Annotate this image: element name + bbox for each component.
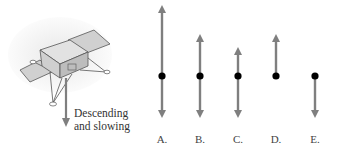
- up-arrowhead-icon: [196, 34, 204, 42]
- up-arrowhead-icon: [158, 5, 166, 13]
- force-diagram-d: [272, 34, 280, 80]
- up-arrowhead-icon: [272, 34, 280, 42]
- down-arrowhead-icon: [158, 110, 166, 118]
- option-label-e: E.: [305, 133, 325, 145]
- object-dot: [272, 72, 279, 79]
- down-arrowhead-icon: [311, 110, 319, 118]
- object-dot: [311, 72, 318, 79]
- force-diagram-b: [196, 34, 204, 118]
- object-dot: [158, 72, 165, 79]
- option-label-d: D.: [266, 133, 286, 145]
- object-dot: [196, 72, 203, 79]
- option-label-a: A.: [152, 133, 172, 145]
- option-label-c: C.: [228, 133, 248, 145]
- down-arrowhead-icon: [196, 110, 204, 118]
- option-label-b: B.: [190, 133, 210, 145]
- object-dot: [234, 72, 241, 79]
- force-diagram-c: [234, 47, 242, 118]
- force-diagram-e: [311, 72, 319, 118]
- force-diagram-a: [158, 5, 166, 118]
- up-arrowhead-icon: [234, 47, 242, 55]
- down-arrowhead-icon: [234, 110, 242, 118]
